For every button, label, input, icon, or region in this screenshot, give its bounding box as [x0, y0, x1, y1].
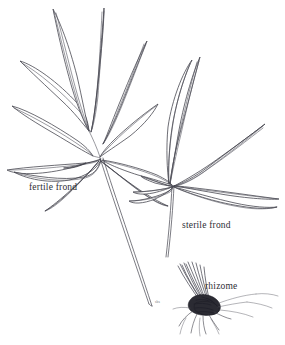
label-fertile-frond: fertile frond: [29, 183, 77, 193]
rhizome-group: [173, 262, 278, 336]
fertile-leaflet-lower-right: [102, 160, 172, 185]
botanical-illustration-plate: fertile frond sterile frond rhizome sbs: [0, 0, 285, 345]
fertile-leaflet-erect-3: [103, 41, 147, 144]
label-sterile-frond: sterile frond: [182, 221, 231, 231]
artist-signature-mark: sbs: [155, 300, 160, 304]
fertile-leaflet-erect-2: [91, 8, 104, 132]
rhizome-crown: [188, 295, 220, 316]
sterile-leaflet-right-upper: [174, 124, 265, 186]
rhizome-roots: [173, 294, 278, 336]
label-rhizome: rhizome: [205, 282, 238, 292]
illustration-canvas: [0, 0, 285, 345]
sterile-leaflet-left-upper: [167, 60, 192, 184]
fertile-rachis-mid: [93, 156, 100, 158]
fertile-frond-group: [7, 8, 172, 306]
fertile-leaflet-erect-1: [53, 9, 89, 131]
sterile-stipe: [166, 186, 174, 257]
fertile-leaflet-lower-left: [7, 159, 101, 174]
